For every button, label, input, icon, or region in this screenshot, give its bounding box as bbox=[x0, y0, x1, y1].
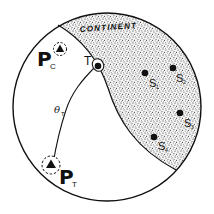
svg-text:4: 4 bbox=[165, 147, 168, 153]
svg-text:θ: θ bbox=[54, 104, 60, 115]
svg-text:3: 3 bbox=[191, 124, 194, 130]
great-circle-path bbox=[53, 66, 96, 164]
site-dot-icon bbox=[177, 110, 184, 117]
svg-text:T: T bbox=[72, 180, 77, 189]
transmitter-label: T bbox=[84, 54, 92, 68]
globe-diagram: CONTINENT θ T T P C P T S 1 S 2 S 3 bbox=[0, 0, 214, 214]
transmitter-dot-icon bbox=[95, 63, 102, 70]
svg-text:2: 2 bbox=[183, 79, 186, 85]
theta-label: θ T bbox=[54, 104, 65, 117]
station-pt: P T bbox=[42, 156, 77, 189]
svg-text:T: T bbox=[61, 111, 65, 117]
site-dot-icon bbox=[142, 70, 149, 77]
svg-text:C: C bbox=[50, 62, 56, 71]
svg-text:1: 1 bbox=[156, 84, 159, 90]
station-pc: P C bbox=[37, 43, 67, 72]
site-dot-icon bbox=[151, 134, 158, 141]
site-dot-icon bbox=[170, 65, 177, 72]
